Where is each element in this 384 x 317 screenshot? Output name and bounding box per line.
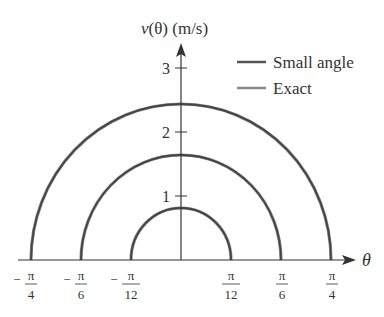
legend-label-exact: Exact bbox=[273, 79, 312, 98]
svg-text:−: − bbox=[13, 272, 20, 287]
svg-text:−: − bbox=[63, 272, 70, 287]
svg-text:12: 12 bbox=[225, 287, 238, 302]
svg-text:π: π bbox=[78, 268, 85, 283]
plot-area: 3 2 1 v(θ) (m/s) θ − π 4 − π 6 − π 12 π … bbox=[0, 0, 384, 317]
y-axis-label: v(θ) (m/s) bbox=[141, 19, 208, 38]
svg-text:4: 4 bbox=[28, 287, 35, 302]
svg-text:π: π bbox=[128, 268, 135, 283]
y-tick-2: 2 bbox=[162, 124, 170, 141]
legend-label-small-angle: Small angle bbox=[273, 53, 354, 72]
svg-text:6: 6 bbox=[78, 287, 85, 302]
svg-text:π: π bbox=[279, 268, 286, 283]
svg-text:π: π bbox=[329, 268, 336, 283]
y-tick-1: 1 bbox=[162, 188, 170, 205]
y-tick-3: 3 bbox=[162, 60, 170, 77]
svg-text:12: 12 bbox=[125, 287, 138, 302]
svg-text:−: − bbox=[110, 272, 117, 287]
svg-text:6: 6 bbox=[279, 287, 286, 302]
x-tick-labels: − π 4 − π 6 − π 12 π 12 π 6 π 4 bbox=[13, 268, 338, 302]
x-axis-label: θ bbox=[362, 250, 371, 270]
svg-text:π: π bbox=[28, 268, 35, 283]
legend: Small angle Exact bbox=[237, 53, 354, 98]
svg-text:π: π bbox=[228, 268, 235, 283]
svg-text:4: 4 bbox=[329, 287, 336, 302]
chart: 3 2 1 v(θ) (m/s) θ − π 4 − π 6 − π 12 π … bbox=[0, 0, 384, 317]
